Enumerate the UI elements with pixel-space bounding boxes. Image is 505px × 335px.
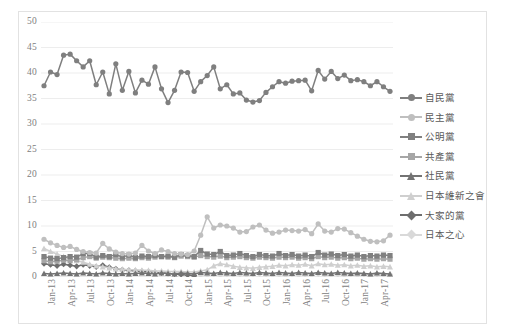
series-0	[41, 52, 392, 106]
legend-item[interactable]: 大家的黨	[400, 206, 486, 226]
legend-marker-icon	[400, 111, 422, 123]
chart-container: 05101520253035404550 Jan-13Apr-13Jul-13O…	[0, 0, 505, 335]
y-axis-tick-label: 20	[11, 170, 37, 180]
legend-label: 日本之心	[425, 230, 465, 240]
x-axis-tick-label: Apr-16	[303, 279, 313, 307]
legend-item[interactable]: 民主黨	[400, 108, 486, 128]
x-axis-tick-label: Apr-15	[224, 279, 234, 307]
legend-label: 共產黨	[425, 152, 455, 162]
y-axis: 05101520253035404550	[9, 22, 37, 277]
x-axis-tick-label: Jul-16	[322, 279, 332, 303]
x-axis-tick-label: Apr-14	[146, 279, 156, 307]
x-axis-tick-label: Apr-17	[381, 279, 391, 307]
x-axis-tick-label: Jan-17	[361, 279, 371, 305]
legend-marker-icon	[400, 190, 422, 202]
chart-legend: 自民黨民主黨公明黨共產黨社民黨日本維新之會大家的黨日本之心	[400, 88, 486, 245]
x-axis-tick-label: Oct-15	[263, 279, 273, 306]
y-axis-tick-label: 5	[11, 247, 37, 257]
legend-label: 自民黨	[425, 93, 455, 103]
legend-item[interactable]: 日本維新之會	[400, 186, 486, 206]
legend-item[interactable]: 日本之心	[400, 225, 486, 245]
x-axis-tick-label: Jul-13	[87, 279, 97, 303]
legend-marker-icon	[400, 229, 422, 241]
x-axis-tick-label: Oct-13	[107, 279, 117, 306]
x-axis-tick-label: Jan-15	[205, 279, 215, 305]
legend-label: 大家的黨	[425, 211, 465, 221]
legend-label: 民主黨	[425, 113, 455, 123]
y-axis-tick-label: 45	[11, 43, 37, 53]
y-axis-tick-label: 25	[11, 145, 37, 155]
plot-svg	[41, 22, 393, 277]
legend-label: 日本維新之會	[425, 191, 485, 201]
legend-marker-icon	[400, 170, 422, 182]
series-1	[41, 214, 392, 257]
x-axis-tick-label: Oct-14	[185, 279, 195, 306]
y-axis-tick-label: 30	[11, 119, 37, 129]
legend-label: 社民黨	[425, 171, 455, 181]
legend-item[interactable]: 社民黨	[400, 166, 486, 186]
y-axis-tick-label: 40	[11, 68, 37, 78]
x-axis-tick-label: Jan-14	[126, 279, 136, 305]
y-axis-tick-label: 0	[11, 272, 37, 282]
y-axis-tick-label: 50	[11, 17, 37, 27]
legend-marker-icon	[400, 209, 422, 221]
legend-item[interactable]: 自民黨	[400, 88, 486, 108]
x-axis-tick-label: Apr-13	[68, 279, 78, 307]
x-axis-tick-label: Jan-13	[48, 279, 58, 305]
legend-marker-icon	[400, 92, 422, 104]
legend-item[interactable]: 公明黨	[400, 127, 486, 147]
x-axis-tick-label: Jan-16	[283, 279, 293, 305]
x-axis-tick-label: Jul-14	[166, 279, 176, 303]
legend-marker-icon	[400, 151, 422, 163]
x-axis: Jan-13Apr-13Jul-13Oct-13Jan-14Apr-14Jul-…	[41, 279, 393, 325]
x-axis-tick-label: Oct-16	[342, 279, 352, 306]
y-axis-tick-label: 35	[11, 94, 37, 104]
series-4	[41, 269, 393, 276]
legend-marker-icon	[400, 131, 422, 143]
y-axis-tick-label: 10	[11, 221, 37, 231]
plot-area	[41, 22, 393, 277]
legend-label: 公明黨	[425, 132, 455, 142]
x-axis-tick-label: Jul-15	[244, 279, 254, 303]
legend-item[interactable]: 共產黨	[400, 147, 486, 167]
gridlines	[41, 22, 393, 277]
y-axis-tick-label: 15	[11, 196, 37, 206]
